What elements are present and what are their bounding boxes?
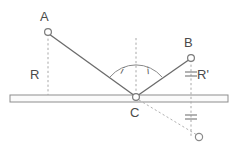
virtual-ray — [139, 100, 197, 135]
label-normal-left: R — [30, 68, 39, 81]
label-point-b: B — [184, 36, 193, 49]
point-marker-a — [45, 29, 52, 36]
reflection-diagram-canvas: A B C R R' i i — [0, 0, 235, 153]
label-point-a: A — [40, 10, 49, 23]
point-marker-b — [188, 55, 195, 62]
label-normal-right: R' — [197, 68, 209, 81]
label-point-c: C — [130, 106, 139, 119]
point-marker-image — [195, 133, 202, 140]
point-marker-c — [133, 94, 140, 101]
plane-mirror — [10, 95, 228, 102]
